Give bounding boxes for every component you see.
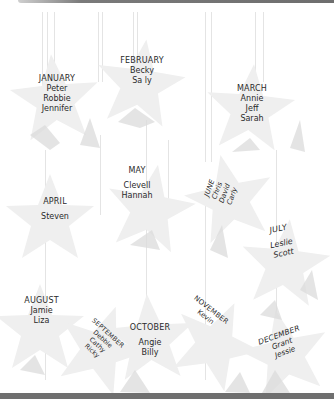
birthday-name: Sarah [222, 114, 282, 124]
birthday-name: Liza [14, 316, 69, 326]
birthday-name: Becky [112, 66, 172, 76]
birthday-name: Sa ly [112, 76, 172, 86]
month-star-may: MAY Clevell Hannah [112, 166, 162, 201]
month-star-october: OCTOBER Angie Billy [120, 323, 180, 358]
birthday-name: Jennifer [22, 104, 92, 114]
month-label: AUGUST [14, 296, 69, 306]
birthday-name: Billy [120, 348, 180, 358]
month-label: APRIL [30, 197, 80, 207]
birthday-name: Clevell [112, 181, 162, 191]
birthday-name: Annie [222, 94, 282, 104]
month-star-january: JANUARY Peter Robbie Jennifer [22, 74, 92, 114]
birthday-name: Hannah [112, 191, 162, 201]
month-label: OCTOBER [120, 323, 180, 333]
birthday-name: Jamie [14, 306, 69, 316]
month-star-august: AUGUST Jamie Liza [14, 296, 69, 326]
month-star-april: APRIL Steven [30, 197, 80, 222]
birthday-name: Jeff [222, 104, 282, 114]
month-star-march: MARCH Annie Jeff Sarah [222, 84, 282, 124]
month-label: MAY [112, 166, 162, 176]
month-label: FEBRUARY [112, 56, 172, 66]
bottom-border [0, 393, 334, 399]
birthday-name: Robbie [22, 94, 92, 104]
birthday-name: Peter [22, 84, 92, 94]
month-label: MARCH [222, 84, 282, 94]
birthday-name: Angie [120, 338, 180, 348]
birthday-name: Steven [30, 212, 80, 222]
month-star-february: FEBRUARY Becky Sa ly [112, 56, 172, 86]
month-label: JANUARY [22, 74, 92, 84]
